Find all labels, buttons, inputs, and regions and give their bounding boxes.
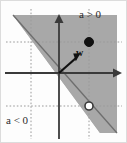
label-a-negative: a < 0 xyxy=(6,114,29,126)
math-diagram-figure: a > 0 a < 0 w xyxy=(0,0,127,143)
open-point xyxy=(85,102,93,110)
closed-point xyxy=(85,38,94,47)
label-vector-w: w xyxy=(76,47,84,58)
diagram-canvas: a > 0 a < 0 w xyxy=(0,0,127,143)
label-a-positive: a > 0 xyxy=(79,8,102,20)
